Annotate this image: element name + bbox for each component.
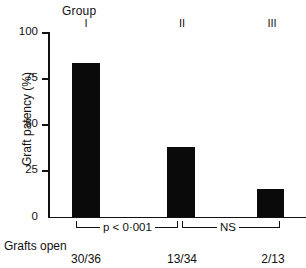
y-tick-label-50: 50 xyxy=(4,117,38,129)
y-tick-50 xyxy=(42,124,49,126)
grafts-open-label: Grafts open xyxy=(4,239,67,253)
group-axis-title: Group xyxy=(62,4,96,18)
grafts-open-value-ii: 13/34 xyxy=(154,252,210,266)
y-tick-75 xyxy=(42,78,49,80)
y-tick-label-25: 25 xyxy=(4,163,38,175)
group-label-iii: III xyxy=(252,17,292,29)
grafts-open-value-iii: 2/13 xyxy=(245,252,301,266)
bar-group-iii xyxy=(257,189,284,217)
bracket-label-p-value: p < 0·001 xyxy=(100,221,155,233)
bar-group-i xyxy=(72,63,100,217)
y-tick-label-100: 100 xyxy=(4,25,38,37)
y-tick-100 xyxy=(42,32,49,34)
y-tick-label-75: 75 xyxy=(4,71,38,83)
y-tick-25 xyxy=(42,170,49,172)
bar-group-ii xyxy=(167,147,195,217)
grafts-open-value-i: 30/36 xyxy=(58,252,114,266)
bracket-label-ns: NS xyxy=(217,221,239,233)
y-tick-label-0: 0 xyxy=(4,210,38,222)
chart-figure: Group I II III Graft patency (%) 100 75 … xyxy=(0,0,306,268)
group-label-i: I xyxy=(66,17,106,29)
group-label-ii: II xyxy=(162,17,202,29)
